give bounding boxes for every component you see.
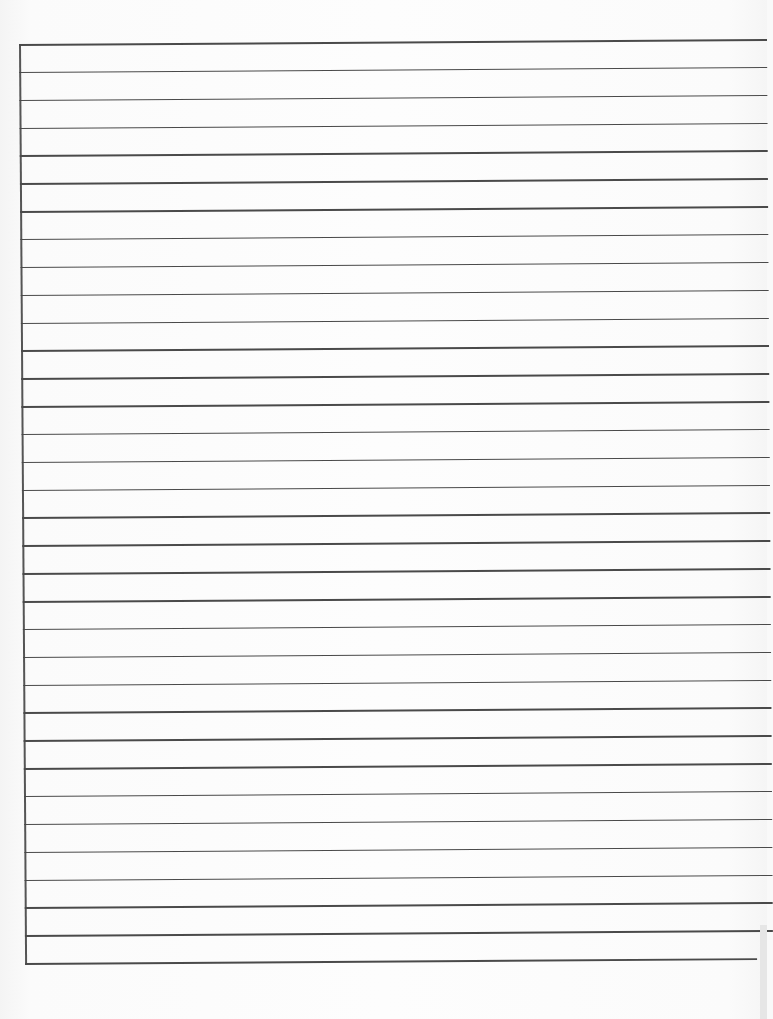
ruled-line [23,624,771,630]
ruled-line [22,540,770,546]
ruled-line [24,791,772,797]
ruled-line [21,290,769,296]
ruled-line [21,373,769,379]
ruled-line [21,318,769,324]
ruled-line [22,457,770,463]
ruled-line [19,67,767,73]
ruled-line [20,150,768,156]
ruled-line [23,596,771,602]
ruled-line [25,930,773,936]
ruled-line [23,707,771,713]
ruled-line [20,123,768,129]
ruled-line [20,206,768,212]
ruled-line [24,847,772,853]
ruled-line [23,652,771,658]
ruled-line [21,401,769,407]
ruled-line [21,345,769,351]
page-edge-shadow [760,925,767,1019]
ruled-line [22,429,770,435]
ruled-line [24,819,772,825]
ruled-line [25,875,773,881]
left-margin-rule [19,44,27,965]
ruled-line [22,512,770,518]
lined-sheet [19,39,773,964]
ruled-line [24,763,772,769]
ruled-line [20,234,768,240]
ruled-line [22,485,770,491]
ruled-line [20,262,768,268]
ruled-line [19,39,767,45]
ruled-line [20,178,768,184]
ruled-line [19,95,767,101]
ruled-line [25,902,773,908]
ruled-line [23,568,771,574]
ruled-line [23,680,771,686]
ruled-line [25,958,757,964]
ruled-line [24,735,772,741]
